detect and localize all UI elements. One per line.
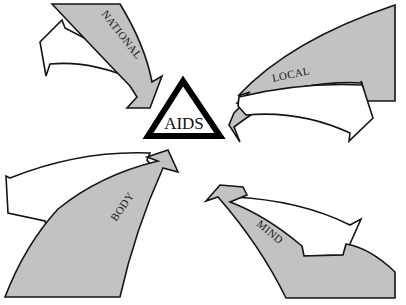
national-arrow-group: NATIONAL xyxy=(40,4,162,108)
body-arrow-group: BODY xyxy=(5,150,178,297)
aids-label: AIDS xyxy=(164,114,204,133)
local-arrow-group: LOCAL xyxy=(229,5,395,142)
aids-center-group: AIDS xyxy=(148,81,220,136)
mind-arrow-group: MIND xyxy=(206,185,395,298)
aids-influence-diagram: NATIONAL LOCAL BODY MIND AIDS xyxy=(0,0,406,305)
